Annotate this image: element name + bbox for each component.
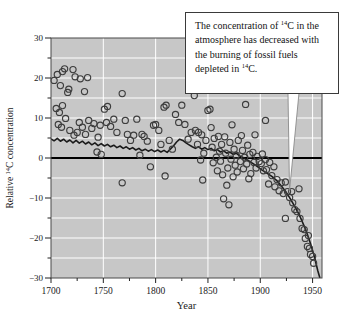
x-tick-label: 1750 <box>94 286 113 296</box>
x-tick-label: 1800 <box>146 286 165 296</box>
y-tick-label: 20 <box>34 73 44 83</box>
x-axis-title: Year <box>177 300 197 311</box>
callout-text: The concentration of <box>195 20 281 31</box>
y-axis-title: Relative 14C concentration <box>4 107 15 208</box>
y-tick-label: −30 <box>29 273 44 283</box>
x-tick-label: 1850 <box>198 286 217 296</box>
y-tick-label: −20 <box>29 233 44 243</box>
carbon-14-figure: 3020100−10−20−30170017501800185019001950… <box>0 0 344 324</box>
y-tick-label: −10 <box>29 193 44 203</box>
y-tick-label: 0 <box>39 153 44 163</box>
x-tick-label: 1900 <box>251 286 270 296</box>
callout-text: C. <box>248 63 257 74</box>
y-tick-label: 10 <box>34 113 44 123</box>
x-tick-label: 1700 <box>42 286 61 296</box>
x-tick-label: 1950 <box>303 286 322 296</box>
y-tick-label: 30 <box>34 33 44 43</box>
callout-box: The concentration of 14C in the atmosphe… <box>185 12 339 94</box>
